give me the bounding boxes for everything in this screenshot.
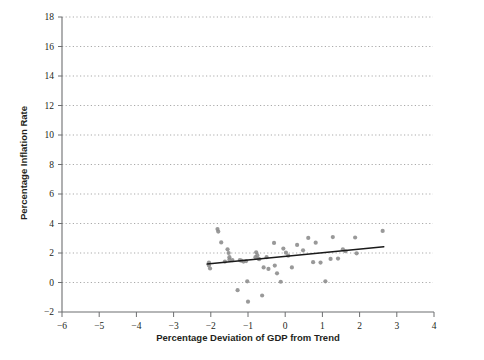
data-point	[279, 280, 283, 284]
y-tick-marks	[58, 17, 62, 312]
data-point	[272, 241, 276, 245]
data-point	[306, 236, 310, 240]
y-tick-label: −2	[44, 307, 54, 317]
data-point	[266, 267, 270, 271]
data-point	[323, 279, 327, 283]
data-point	[227, 251, 231, 255]
y-tick-label: 10	[45, 130, 55, 140]
x-tick-label: −4	[131, 321, 141, 331]
y-tick-label: 8	[49, 160, 54, 170]
gridlines	[62, 17, 433, 283]
y-tick-label: 18	[45, 12, 55, 22]
y-tick-label: 2	[49, 248, 54, 258]
data-point	[225, 247, 229, 251]
x-tick-label: −1	[243, 321, 253, 331]
x-tick-label: −6	[57, 321, 67, 331]
x-axis-title: Percentage Deviation of GDP from Trend	[156, 332, 340, 343]
x-tick-labels: −6−5−4−3−2−101234	[57, 321, 437, 331]
x-tick-label: 4	[432, 321, 437, 331]
data-point	[273, 263, 277, 267]
scatter-plot: −6−5−4−3−2−101234 −2024681012141618 Perc…	[0, 0, 484, 360]
data-point	[246, 300, 250, 304]
y-tick-label: 6	[49, 189, 54, 199]
data-point	[245, 279, 249, 283]
data-point	[301, 248, 305, 252]
y-tick-label: 16	[45, 42, 55, 52]
data-point	[281, 246, 285, 250]
data-point	[208, 266, 212, 270]
data-point	[353, 235, 357, 239]
y-tick-label: 12	[45, 101, 55, 111]
y-tick-label: 0	[49, 278, 54, 288]
trend-line	[207, 247, 384, 264]
data-point	[381, 229, 385, 233]
y-axis-title: Percentage Inflation Rate	[18, 106, 29, 220]
data-point	[219, 240, 223, 244]
data-point	[290, 265, 294, 269]
data-point	[262, 265, 266, 269]
x-tick-label: 1	[320, 321, 325, 331]
x-tick-label: 0	[283, 321, 288, 331]
y-tick-label: 14	[45, 71, 55, 81]
x-tick-marks	[62, 312, 434, 317]
x-tick-label: 3	[394, 321, 399, 331]
data-point	[295, 243, 299, 247]
x-tick-label: −5	[94, 321, 104, 331]
x-tick-label: 2	[357, 321, 362, 331]
data-point	[311, 260, 315, 264]
data-points	[207, 227, 385, 304]
data-point	[318, 260, 322, 264]
y-tick-labels: −2024681012141618	[44, 12, 54, 317]
chart-figure: −6−5−4−3−2−101234 −2024681012141618 Perc…	[0, 0, 484, 360]
data-point	[216, 230, 220, 234]
data-point	[235, 288, 239, 292]
data-point	[331, 235, 335, 239]
trend-line-group	[207, 247, 384, 264]
x-tick-label: −2	[206, 321, 216, 331]
data-point	[314, 241, 318, 245]
data-point	[336, 257, 340, 261]
data-point	[275, 271, 279, 275]
data-point	[260, 293, 264, 297]
axes	[62, 17, 434, 312]
y-tick-label: 4	[49, 219, 54, 229]
data-point	[328, 257, 332, 261]
data-point	[355, 251, 359, 255]
x-tick-label: −3	[169, 321, 179, 331]
